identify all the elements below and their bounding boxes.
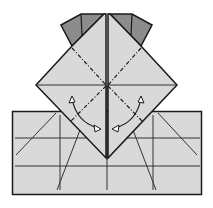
origami-diagram bbox=[0, 0, 213, 208]
